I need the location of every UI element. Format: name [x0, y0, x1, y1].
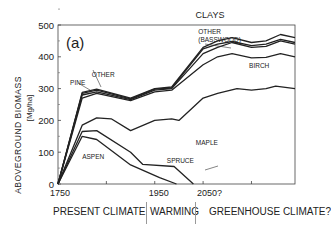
- annotation-label: OTHER: [198, 28, 221, 35]
- annotation-label: MAPLE: [196, 139, 219, 146]
- annotation-label: OTHER: [92, 71, 115, 78]
- leader-lines: [78, 44, 231, 170]
- y-tick-label: 200: [38, 115, 54, 126]
- y-tick-label: 500: [38, 20, 54, 31]
- x-tick-label: 1950: [149, 188, 169, 198]
- x-tick-label: 1750: [50, 188, 70, 198]
- x-tick-label: 2050?: [197, 188, 222, 198]
- annotations: OTHERPINEOTHER(BASSWOOD)BIRCHMAPLEASPENS…: [70, 28, 269, 164]
- y-tick-label: 400: [38, 51, 54, 62]
- panel-label: (a): [66, 34, 84, 51]
- y-axis-units: [Mg/ha]: [25, 95, 34, 122]
- annotation-label: (BASSWOOD): [198, 36, 241, 44]
- era-greenhouse-climate: GREENHOUSE CLIMATE?: [209, 206, 331, 217]
- annotation-label: ASPEN: [82, 153, 104, 160]
- annotation-label: PINE: [70, 79, 86, 86]
- era-divider: [195, 202, 196, 224]
- y-axis-label: ABOVEGROUND BIOMASS: [13, 76, 23, 194]
- annotation-label: BIRCH: [249, 62, 270, 69]
- y-tick-label: 300: [38, 83, 54, 94]
- era-warming: WARMING: [150, 206, 199, 217]
- y-tick-label: 100: [38, 147, 54, 158]
- era-divider: [146, 202, 147, 224]
- x-axis: 175019502050?: [50, 181, 251, 198]
- y-axis: 0100200300400500: [38, 9, 61, 189]
- era-present-climate: PRESENT CLIMATE: [53, 206, 145, 217]
- annotation-label: SPRUCE: [167, 157, 195, 164]
- chart-title: CLAYS: [196, 10, 225, 20]
